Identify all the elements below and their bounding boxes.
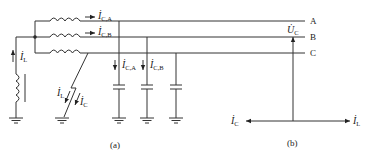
capacitor-branch-b — [140, 37, 154, 123]
fault-current-l-label: İL — [56, 87, 64, 99]
fault-current-c-label: İC — [79, 96, 88, 108]
bus-label-b: B — [310, 32, 316, 42]
arrow-icon — [65, 91, 70, 103]
bus-label-a: A — [310, 16, 317, 26]
inductive-current-label: İL — [352, 115, 360, 127]
caption-a: (a) — [110, 140, 120, 150]
line-current-cb-label: İC,B — [97, 26, 112, 38]
circuit-diagram: A B C İC,A İC,B İL İL İC — [0, 0, 365, 154]
figure-b: U̇C İC İL (b) — [230, 24, 360, 148]
cap-current-cb-label: İC,B — [149, 59, 164, 71]
inductor-current-label: İL — [19, 51, 27, 63]
bus-label-c: C — [310, 48, 316, 58]
voltage-phasor-label: U̇C — [287, 24, 299, 36]
cap-current-ca-label: İC,A — [121, 59, 136, 71]
neutral-inductor-coil — [16, 74, 19, 102]
figure-a: A B C İC,A İC,B İL İL İC — [9, 10, 317, 150]
inductor-coil-a — [50, 18, 80, 21]
capacitor-branch-c — [169, 53, 183, 123]
ground-icon — [9, 118, 23, 123]
caption-b: (b) — [287, 138, 298, 148]
ground-icon — [55, 118, 69, 123]
inductor-coil-c — [50, 50, 80, 53]
line-current-ca-label: İC,A — [97, 10, 112, 22]
capacitive-current-label: İC — [230, 115, 239, 127]
inductor-coil-b — [50, 34, 80, 37]
capacitor-branch-a — [112, 21, 126, 123]
